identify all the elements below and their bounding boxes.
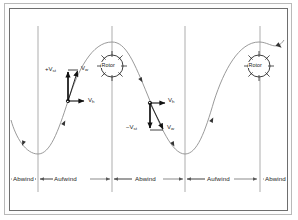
- vector-label-v-h-up: Vh: [88, 97, 94, 103]
- figure-container: Rotor Rotor Abwind Aufwind Abwind Aufwin…: [0, 0, 298, 220]
- path-direction-arrows: [20, 42, 283, 147]
- velocity-vectors-down: [148, 101, 165, 130]
- flight-path-curve: [11, 40, 284, 154]
- zone-label-abwind-3: Abwind: [264, 175, 287, 182]
- flight-path-chart: [0, 0, 298, 220]
- path-arrow-6: [275, 42, 283, 50]
- zone-label-aufwind-1: Aufwind: [53, 175, 78, 182]
- path-arrow-3: [138, 77, 144, 83]
- vector-label-v-h-down: Vh: [168, 97, 174, 103]
- vector-v-w-up: [68, 71, 78, 101]
- zone-label-abwind-1: Abwind: [12, 175, 35, 182]
- path-arrow-5: [209, 117, 215, 123]
- vector-label-v-st-plus: +Vst: [45, 66, 56, 72]
- zone-label-aufwind-2: Aufwind: [206, 175, 231, 182]
- vector-label-v-st-minus: −Vst: [126, 124, 137, 130]
- path-arrow-2: [61, 120, 67, 126]
- vector-v-w-down: [150, 103, 163, 129]
- vertical-reference-lines: [38, 26, 260, 192]
- rotor-left-label: Rotor: [101, 62, 115, 68]
- vector-label-v-w-down: Vw: [167, 124, 174, 130]
- zone-label-abwind-2: Abwind: [134, 175, 157, 182]
- velocity-vectors-up: [66, 70, 84, 103]
- vector-label-v-w-up: Vw: [81, 65, 88, 71]
- rotor-right-label: Rotor: [248, 62, 262, 68]
